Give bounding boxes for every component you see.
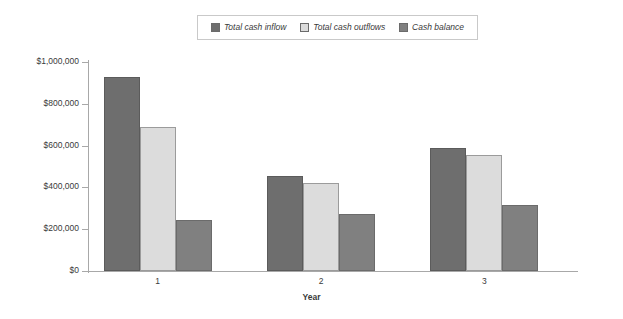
bar-series-0-category-1[interactable] bbox=[104, 77, 140, 271]
legend-item-total-cash-inflow: Total cash inflow bbox=[211, 23, 287, 32]
y-axis-line bbox=[88, 60, 89, 273]
x-axis-tick-label-2: 2 bbox=[291, 277, 351, 286]
bar-group-year-3 bbox=[430, 62, 538, 271]
y-axis-tick-label: $400,000 bbox=[44, 182, 79, 191]
bar-series-1-category-1[interactable] bbox=[140, 127, 176, 271]
y-axis-tick-labels: $0$200,000$400,000$600,000$800,000$1,000… bbox=[0, 0, 79, 319]
legend-item-cash-balance: Cash balance bbox=[399, 23, 464, 32]
x-axis-tick-label-3: 3 bbox=[454, 277, 514, 286]
bar-series-2-category-2[interactable] bbox=[339, 214, 375, 271]
legend-item-total-cash-outflows: Total cash outflows bbox=[300, 23, 385, 32]
y-axis-tick bbox=[82, 146, 88, 147]
bar-series-1-category-3[interactable] bbox=[466, 155, 502, 271]
y-axis-tick bbox=[82, 62, 88, 63]
bar-group-year-2 bbox=[267, 62, 375, 271]
legend-label-series-0: Total cash inflow bbox=[224, 23, 287, 32]
y-axis-tick bbox=[82, 229, 88, 230]
legend-swatch-icon-series-0 bbox=[211, 23, 220, 32]
x-axis-tick-label-1: 1 bbox=[128, 277, 188, 286]
y-axis-tick-label: $200,000 bbox=[44, 224, 79, 233]
y-axis-tick-label: $800,000 bbox=[44, 99, 79, 108]
legend-label-series-1: Total cash outflows bbox=[313, 23, 385, 32]
x-axis-line bbox=[88, 271, 578, 272]
bar-group-year-1 bbox=[104, 62, 212, 271]
bar-series-1-category-2[interactable] bbox=[303, 183, 339, 271]
y-axis-tick-label: $1,000,000 bbox=[36, 57, 79, 66]
y-axis-tick bbox=[82, 104, 88, 105]
bar-series-0-category-3[interactable] bbox=[430, 148, 466, 271]
legend-swatch-icon-series-1 bbox=[300, 23, 309, 32]
bar-series-2-category-3[interactable] bbox=[502, 205, 538, 271]
bar-chart: Total cash inflow Total cash outflows Ca… bbox=[0, 0, 623, 319]
y-axis-tick-label: $0 bbox=[70, 266, 79, 275]
bar-series-0-category-2[interactable] bbox=[267, 176, 303, 271]
y-axis-tick bbox=[82, 271, 88, 272]
y-axis-tick-label: $600,000 bbox=[44, 141, 79, 150]
legend-label-series-2: Cash balance bbox=[412, 23, 464, 32]
legend-swatch-icon-series-2 bbox=[399, 23, 408, 32]
chart-legend: Total cash inflow Total cash outflows Ca… bbox=[197, 15, 478, 40]
bar-series-2-category-1[interactable] bbox=[176, 220, 212, 271]
x-axis-title: Year bbox=[0, 293, 623, 302]
y-axis-tick bbox=[82, 187, 88, 188]
